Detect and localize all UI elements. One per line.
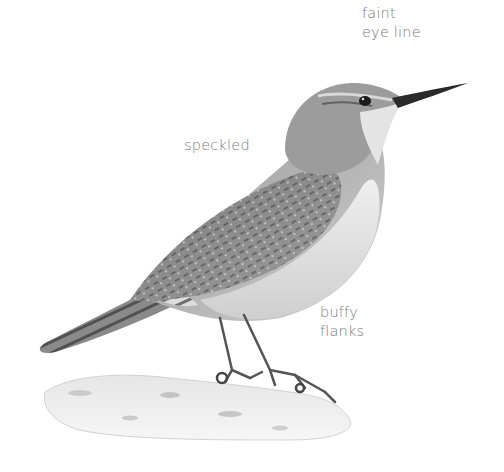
bird-eye (359, 96, 371, 106)
label-line: flanks (320, 322, 364, 341)
label-line: eye line (362, 23, 421, 42)
bird-illustration (0, 0, 504, 472)
label-line: buffy (320, 303, 364, 322)
label-line: faint (362, 4, 421, 23)
label-faint-eye-line: faint eye line (362, 4, 421, 42)
label-line: speckled (184, 136, 250, 155)
illustration-stage: faint eye line speckled buffy flanks (0, 0, 504, 472)
rock-perch (44, 375, 350, 440)
label-buffy-flanks: buffy flanks (320, 303, 364, 341)
bird-head (285, 83, 468, 175)
bird-beak (392, 83, 468, 108)
label-speckled: speckled (184, 136, 250, 155)
